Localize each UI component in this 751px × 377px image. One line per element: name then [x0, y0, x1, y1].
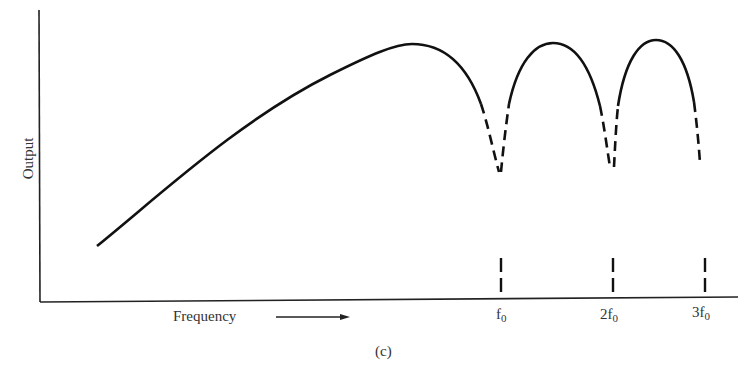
response-curve: [97, 44, 481, 246]
lobe-2: [509, 43, 600, 106]
tick-label-f0: f0: [496, 306, 507, 324]
chart-canvas: [0, 0, 751, 377]
notch-dash-2f0-right: [614, 106, 618, 167]
x-axis: [40, 297, 738, 302]
notch-dash-3f0: [694, 102, 700, 163]
tick-label-3f0: 3f0: [692, 304, 710, 322]
arrowhead-icon: [340, 314, 350, 320]
notch-dash-f0-right: [501, 104, 509, 172]
tick-label-2f0: 2f0: [600, 306, 618, 324]
notch-dash-f0-left: [481, 104, 499, 172]
y-axis-label: Output: [20, 129, 37, 189]
y-axis: [39, 10, 40, 302]
figure-caption: (c): [375, 343, 392, 360]
x-axis-label: Frequency: [173, 308, 236, 325]
lobe-3: [618, 40, 694, 106]
notch-dash-2f0-left: [600, 106, 610, 167]
